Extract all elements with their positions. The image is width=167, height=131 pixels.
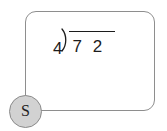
step-badge-label: S <box>21 103 30 120</box>
divisor-group: 4 <box>53 30 70 57</box>
step-badge[interactable]: S <box>9 95 42 128</box>
worksheet-canvas: 4 7 2 S <box>0 0 167 131</box>
vinculum-overbar <box>69 31 115 32</box>
long-division-expression: 4 7 2 <box>53 30 105 57</box>
dividend-value: 7 2 <box>69 34 105 55</box>
dividend-group: 7 2 <box>69 30 105 55</box>
problem-card: 4 7 2 <box>25 11 155 111</box>
